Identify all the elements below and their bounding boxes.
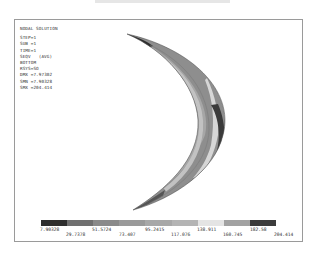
legend-band-5: [145, 220, 171, 226]
legend-band-2: [67, 220, 93, 226]
legend-label: 160.745: [223, 232, 242, 237]
legend-band-4: [119, 220, 145, 226]
graphics-window: NODAL SOLUTIONSTEP=1SUB =1TIME=1SEQV(AVG…: [14, 19, 303, 242]
legend-band-1: [41, 220, 67, 226]
legend-label: 117.076: [171, 232, 190, 237]
contour-legend-bar: [41, 220, 276, 226]
legend-band-6: [172, 220, 198, 226]
legend-label: 138.911: [197, 227, 216, 232]
crescent-mesh: [115, 20, 245, 220]
legend-band-8: [224, 220, 250, 226]
legend-band-9: [250, 220, 276, 226]
legend-band-7: [198, 220, 224, 226]
legend-label: 95.2415: [145, 227, 164, 232]
legend-band-3: [93, 220, 119, 226]
legend-label: 73.407: [119, 232, 136, 237]
legend-label: 7.90328: [40, 227, 59, 232]
legend-label: 29.7378: [66, 232, 85, 237]
legend-label: 182.58: [250, 227, 267, 232]
cropped-caption-fragment: [95, 0, 230, 3]
legend-label: 204.414: [274, 232, 293, 237]
legend-label: 51.5724: [92, 227, 111, 232]
contour-plot: [15, 20, 304, 243]
